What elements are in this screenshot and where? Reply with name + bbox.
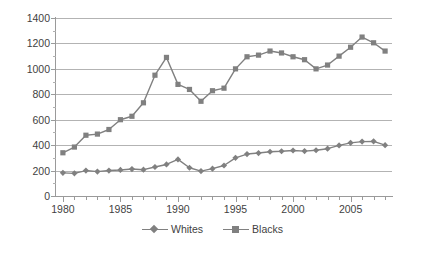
legend-entry-whites[interactable]: Whites [142,224,203,235]
data-point-blacks-2000 [290,54,295,59]
data-point-whites-1999 [278,148,284,154]
data-point-blacks-1985 [118,117,123,122]
data-point-blacks-1980 [60,150,65,155]
data-point-blacks-1982 [83,133,88,138]
data-point-whites-2006 [359,138,365,144]
data-point-blacks-1988 [152,73,157,78]
data-point-blacks-2006 [359,34,364,39]
data-point-whites-2001 [301,148,307,154]
data-point-whites-1981 [71,170,77,176]
y-tick-mark-1400 [51,18,56,19]
data-point-whites-1985 [117,167,123,173]
y-minor-tick-1100 [53,56,56,57]
data-point-whites-1992 [198,168,204,174]
data-point-blacks-1990 [175,82,180,87]
y-minor-tick-500 [53,132,56,133]
data-point-whites-1993 [209,166,215,172]
data-point-whites-2005 [347,140,353,146]
data-point-blacks-1999 [279,50,284,55]
whites-diamond-marker-icon [142,224,168,235]
data-point-blacks-1986 [129,114,134,119]
y-tick-mark-0 [51,196,56,197]
legend-label-whites: Whites [171,224,203,235]
data-point-blacks-1993 [210,88,215,93]
data-point-whites-1997 [255,150,261,156]
data-point-blacks-2007 [371,40,376,45]
data-point-blacks-1981 [72,144,77,149]
data-point-whites-1983 [94,168,100,174]
y-minor-tick-1300 [53,31,56,32]
y-minor-tick-900 [53,82,56,83]
data-point-blacks-2005 [348,45,353,50]
data-point-whites-1987 [140,167,146,173]
data-point-whites-1996 [244,151,250,157]
data-point-whites-1982 [83,167,89,173]
data-point-blacks-1998 [267,48,272,53]
data-point-blacks-2004 [336,54,341,59]
y-tick-mark-200 [51,171,56,172]
blacks-square-marker-icon [223,224,249,235]
data-point-whites-1989 [163,161,169,167]
data-point-whites-2008 [382,142,388,148]
data-point-whites-1984 [106,167,112,173]
data-point-whites-2004 [336,142,342,148]
data-point-blacks-2002 [313,66,318,71]
y-tick-mark-800 [51,94,56,95]
y-tick-mark-1200 [51,43,56,44]
legend-label-blacks: Blacks [252,224,283,235]
data-point-whites-2000 [290,147,296,153]
data-point-blacks-1987 [141,100,146,105]
y-tick-mark-600 [51,120,56,121]
data-point-whites-1986 [129,166,135,172]
data-point-blacks-1989 [164,55,169,60]
data-point-whites-1998 [267,149,273,155]
y-minor-tick-100 [53,183,56,184]
y-minor-tick-700 [53,107,56,108]
data-point-blacks-1991 [187,87,192,92]
data-point-blacks-1994 [221,86,226,91]
line-chart: 0200400600800100012001400 19801985199019… [0,0,425,254]
data-point-whites-2002 [313,147,319,153]
data-point-blacks-1992 [198,99,203,104]
data-point-blacks-1983 [95,131,100,136]
legend-entry-blacks[interactable]: Blacks [223,224,283,235]
series-layer [0,0,425,254]
data-point-whites-1988 [152,164,158,170]
chart-legend: Whites Blacks [0,224,425,235]
data-point-blacks-2008 [383,48,388,53]
data-point-whites-1980 [60,170,66,176]
data-point-blacks-1995 [233,66,238,71]
data-point-blacks-1997 [256,53,261,58]
data-point-whites-2007 [370,138,376,144]
data-point-blacks-1996 [244,54,249,59]
data-point-blacks-2003 [325,62,330,67]
y-tick-mark-400 [51,145,56,146]
data-point-blacks-2001 [302,57,307,62]
y-tick-mark-1000 [51,69,56,70]
y-minor-tick-300 [53,158,56,159]
data-point-whites-2003 [324,146,330,152]
data-point-blacks-1984 [106,127,111,132]
